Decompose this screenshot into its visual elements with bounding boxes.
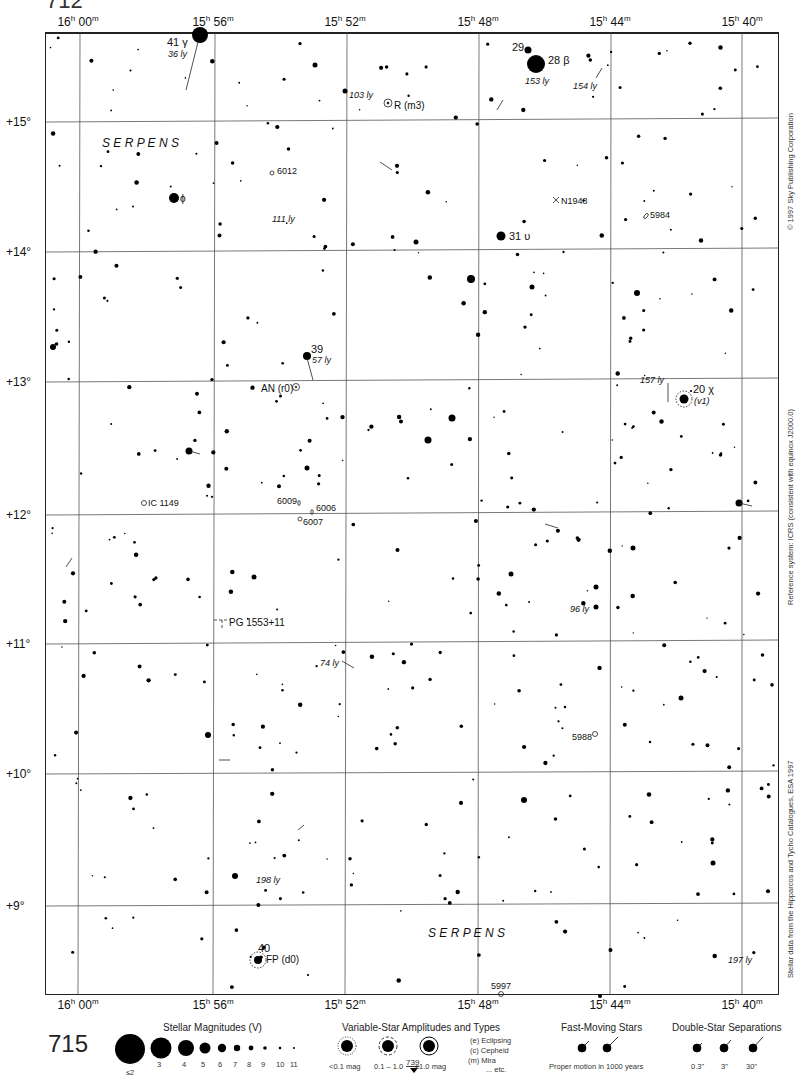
label-111ly: 111 ly: [272, 214, 295, 224]
star-chart: 41 γ 36 ly 29 28 β 153 ly 154 ly 103 ly …: [0, 0, 808, 1086]
label-39: 39: [311, 343, 323, 355]
label-103ly: 103 ly: [349, 90, 374, 100]
label-157ly: 157 ly: [640, 375, 665, 385]
label-fp: FP (d0): [266, 954, 299, 965]
label-20-chi-var: (v1): [694, 396, 710, 406]
double-sep-30: 30": [746, 1062, 757, 1071]
double-star-symbols: [693, 1037, 763, 1052]
reference-system-credit: Reference system: ICRS (consistent with …: [786, 409, 795, 605]
label-ic1149: IC 1149: [148, 498, 179, 508]
magnitude-label-6: 6: [218, 1060, 222, 1069]
magnitude-label-9: 9: [261, 1060, 265, 1069]
label-ngc6006: 6006: [316, 503, 336, 513]
magnitude-label-5: 5: [201, 1060, 205, 1069]
variable-amp-01-10: 0.1 – 1.0: [374, 1062, 403, 1071]
label-31-upsilon: 31 υ: [509, 230, 530, 242]
double-sep-03: 0.3": [691, 1062, 704, 1071]
variable-star-rings: [250, 391, 692, 968]
magnitude-label-3: 3: [157, 1060, 161, 1069]
label-154ly: 154 ly: [573, 81, 598, 91]
variable-title: Variable-Star Amplitudes and Types: [342, 1022, 500, 1033]
label-pg1553: PG 1553+11: [229, 617, 285, 628]
label-96ly: 96 ly: [570, 604, 590, 614]
magnitude-label-11: 11: [290, 1060, 298, 1069]
label-198ly: 198 ly: [256, 875, 281, 885]
double-sep-3: 3": [721, 1062, 728, 1071]
label-41-gamma-dist: 36 ly: [168, 49, 188, 59]
label-28-beta: 28 β: [548, 54, 570, 66]
label-n1948: N1948: [561, 196, 588, 206]
ra-grid-lines: [78, 33, 742, 994]
label-39-dist: 57 ly: [312, 355, 332, 365]
fast-moving-title: Fast-Moving Stars: [561, 1022, 642, 1033]
magnitude-label-7: 7: [233, 1060, 237, 1069]
label-29: 29: [512, 41, 524, 53]
label-20-chi: 20 χ: [693, 383, 714, 395]
label-ngc5988: 5988: [572, 732, 592, 742]
variable-type-mira: (m) Mira: [468, 1056, 496, 1065]
fast-moving-symbols: [578, 1037, 618, 1052]
magnitude-label-≤2: ≤2: [126, 1068, 134, 1077]
constellation-label-serpens-top: S E R P E N S: [102, 136, 179, 150]
label-phi: ϕ: [180, 193, 186, 204]
variable-amp-ge10: ≥1.0 mag: [415, 1062, 446, 1071]
fast-moving-caption: Proper motion in 1000 years: [549, 1062, 643, 1071]
label-r-serpentis: R (m3): [394, 100, 425, 111]
label-ngc6007: 6007: [303, 517, 323, 527]
variable-amp-lt01: <0.1 mag: [329, 1062, 360, 1071]
magnitude-label-8: 8: [247, 1060, 251, 1069]
dec-grid-lines: [46, 118, 778, 906]
label-28-beta-dist: 153 ly: [525, 76, 550, 86]
variable-type-cepheid: (c) Cepheid: [470, 1046, 509, 1055]
variable-type-etc: ... etc.: [486, 1065, 506, 1074]
constellation-label-serpens-bottom: S E R P E N S: [428, 926, 505, 940]
double-star-title: Double-Star Separations: [672, 1022, 782, 1033]
label-ngc6012: 6012: [277, 166, 297, 176]
variable-type-eclipsing: (e) Eclipsing: [470, 1036, 511, 1045]
data-source-credit: Stellar data from the Hipparcos and Tych…: [786, 761, 795, 979]
magnitude-label-4: 4: [182, 1060, 186, 1069]
label-ngc6009: 6009: [277, 496, 297, 506]
label-41-gamma: 41 γ: [167, 36, 188, 48]
label-ngc5997: 5997: [491, 981, 511, 991]
label-40: 40: [258, 942, 270, 954]
label-an: AN (r0): [261, 383, 293, 394]
label-74ly: 74 ly: [320, 658, 340, 668]
deep-sky-objects: [142, 99, 650, 997]
label-ngc5984: 5984: [650, 210, 670, 220]
continuation-page-link[interactable]: 739: [406, 1058, 419, 1067]
proper-motion-vectors: [66, 42, 752, 830]
magnitude-label-10: 10: [276, 1060, 284, 1069]
copyright-credit: © 1997 Sky Publishing Corporation: [786, 113, 795, 230]
label-197ly: 197 ly: [728, 955, 753, 965]
legend: Stellar Magnitudes (V): [0, 1020, 808, 1086]
